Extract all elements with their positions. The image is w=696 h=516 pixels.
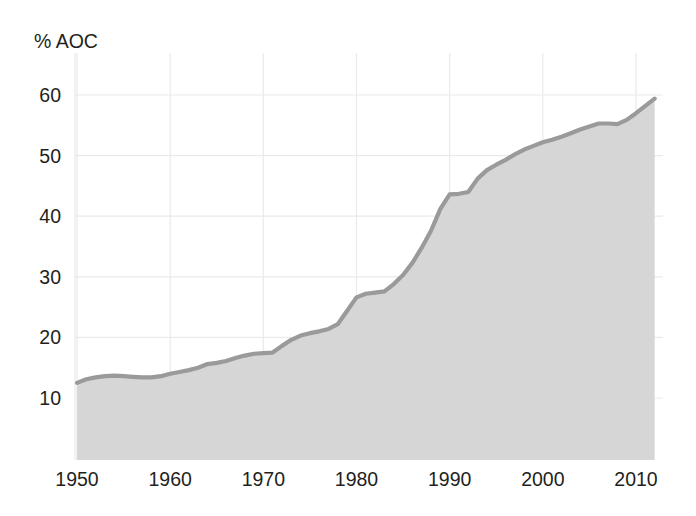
x-tick-label: 1970 (242, 468, 286, 490)
x-tick-label: 1960 (148, 468, 192, 490)
x-tick-label: 1990 (428, 468, 472, 490)
chart-container: 102030405060 195019601970198019902000201… (0, 0, 696, 516)
y-tick-label: 50 (39, 145, 61, 167)
y-tick-label: 10 (39, 387, 61, 409)
x-tick-label: 1950 (55, 468, 99, 490)
x-tick-label: 1980 (335, 468, 379, 490)
x-tick-label: 2010 (614, 468, 658, 490)
area-chart: 102030405060 195019601970198019902000201… (0, 0, 696, 516)
y-tick-label: 60 (39, 84, 61, 106)
y-tick-label: 40 (39, 205, 61, 227)
y-axis-title: % AOC (34, 30, 98, 52)
y-tick-label: 20 (39, 326, 61, 348)
x-tick-label: 2000 (521, 468, 565, 490)
y-tick-label: 30 (39, 266, 61, 288)
